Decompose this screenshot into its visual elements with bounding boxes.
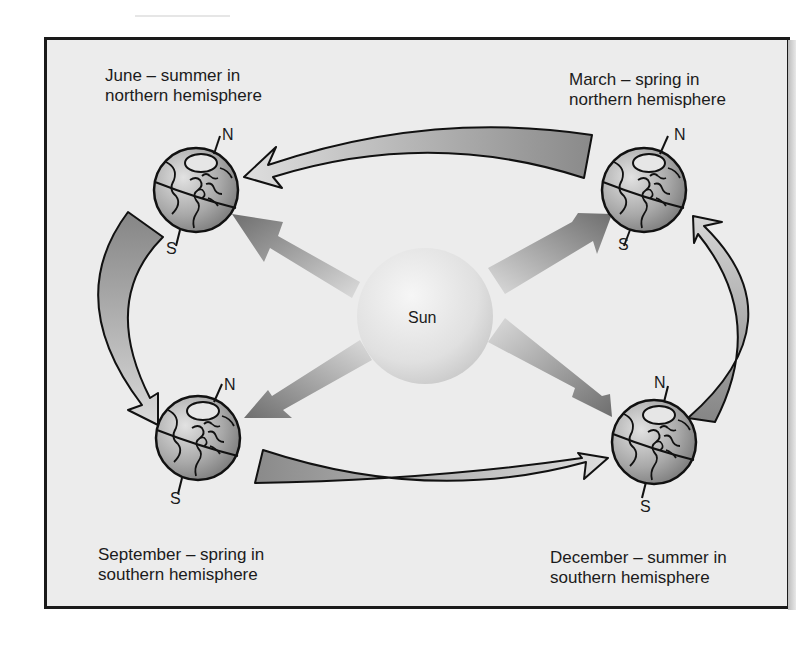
label-march-line2: northern hemisphere [569,90,726,110]
globe-june [154,136,238,246]
label-march-line1: March – spring in [569,70,726,90]
pole-south-september: S [170,490,181,508]
label-december: December – summer in southern hemisphere [550,548,727,588]
globe-september [156,384,240,494]
label-september-line2: southern hemisphere [98,565,264,585]
orbit-arrow-march-to-june [244,127,592,188]
label-march: March – spring in northern hemisphere [569,70,726,110]
sunlight-arrow-to-june [232,214,360,298]
globe-december [612,386,696,498]
pole-north-march: N [674,126,686,144]
pole-south-december: S [640,498,651,516]
sunlight-arrow-to-march [488,213,612,294]
orbit-arrow-september-to-december [255,450,608,483]
sunlight-arrow-to-december [488,318,612,417]
sun-label: Sun [408,309,436,327]
orbit-arrow-december-to-march [688,216,748,422]
pole-north-june: N [222,126,234,144]
orbit-arrow-june-to-september [98,212,163,425]
label-june-line1: June – summer in [105,66,262,86]
label-december-line2: southern hemisphere [550,568,727,588]
pole-north-september: N [224,376,236,394]
label-september-line1: September – spring in [98,545,264,565]
label-december-line1: December – summer in [550,548,727,568]
pole-south-june: S [166,240,177,258]
pole-south-march: S [618,236,629,254]
pole-north-december: N [654,374,666,392]
label-june: June – summer in northern hemisphere [105,66,262,106]
label-june-line2: northern hemisphere [105,86,262,106]
sunlight-arrow-to-september [244,340,372,418]
globe-march [602,136,686,246]
label-september: September – spring in southern hemispher… [98,545,264,585]
